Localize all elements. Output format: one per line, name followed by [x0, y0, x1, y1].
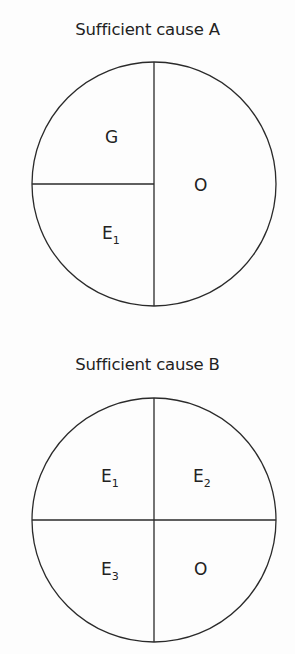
component-o: O: [194, 175, 207, 195]
sufficient-cause-b-pie: E1 E2 E3 O: [0, 330, 295, 654]
component-e2: E2: [193, 466, 211, 490]
component-e1: E1: [102, 223, 120, 247]
sufficient-cause-a-pie: G E1 O: [0, 0, 295, 330]
component-g: G: [105, 127, 118, 147]
component-e1: E1: [101, 466, 119, 490]
component-o: O: [194, 559, 207, 579]
component-e3: E3: [101, 559, 119, 583]
